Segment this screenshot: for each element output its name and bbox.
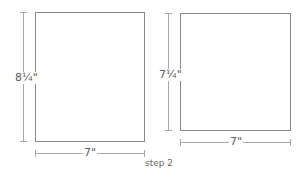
left-height-label: 8¼" — [14, 72, 39, 84]
left-panel-rect — [36, 13, 145, 142]
right-panel-rect — [181, 14, 291, 131]
right-width-label: 7" — [229, 136, 243, 148]
right-height-label: 7¼" — [158, 69, 183, 81]
step-caption: step 2 — [145, 158, 173, 168]
left-width-label: 7" — [83, 147, 97, 159]
